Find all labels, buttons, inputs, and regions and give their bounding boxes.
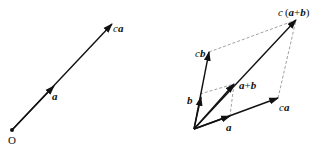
- vector-a-label: a: [226, 122, 232, 133]
- vector-a: a: [118, 22, 124, 34]
- vector-c-a-plus-b-label: c(a+b): [278, 7, 309, 18]
- vector-a-arrow: [12, 86, 54, 130]
- vector-a: a: [284, 101, 290, 113]
- vector-a-label: a: [52, 91, 58, 102]
- vector-scaling-diagram: [0, 0, 325, 151]
- origin-label: O: [8, 135, 16, 146]
- origin-point: [10, 128, 14, 132]
- vector-cb-label: cb: [195, 48, 205, 59]
- scalar-c: c: [278, 6, 283, 18]
- vector-b: b: [251, 79, 257, 91]
- vector-b: b: [200, 47, 206, 59]
- vector-ca-label: ca: [279, 102, 289, 113]
- vector-b-label: b: [187, 95, 193, 106]
- vector-a-plus-b-label: a+b: [239, 80, 256, 91]
- left-diagram: [10, 24, 112, 132]
- close-paren: ): [306, 6, 310, 18]
- vector-ca-label: ca: [113, 23, 123, 34]
